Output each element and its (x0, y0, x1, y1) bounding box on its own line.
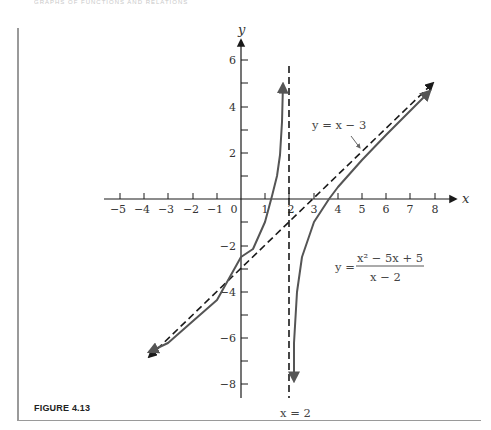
y-axis-tick-labels: 6 4 2 −2 −4 −6 −8 (220, 54, 236, 391)
svg-text:4: 4 (335, 203, 342, 216)
curve-right-branch (294, 91, 430, 381)
svg-text:−2: −2 (183, 203, 199, 216)
svg-text:−6: −6 (220, 332, 236, 345)
svg-text:5: 5 (359, 203, 366, 216)
svg-text:6: 6 (229, 54, 236, 67)
svg-text:−1: −1 (207, 203, 223, 216)
y-axis-ticks (241, 60, 248, 384)
svg-text:−4: −4 (134, 203, 150, 216)
y-axis-label: y (237, 22, 246, 37)
svg-text:4: 4 (229, 101, 236, 114)
function-graph: −5 −4 −3 −2 −1 0 1 2 3 4 5 6 7 8 x (0, 0, 491, 430)
svg-text:0: 0 (231, 203, 238, 216)
svg-text:−3: −3 (158, 203, 174, 216)
x-axis: −5 −4 −3 −2 −1 0 1 2 3 4 5 6 7 8 x (104, 191, 470, 216)
oblique-asymptote-line (149, 83, 433, 357)
svg-text:8: 8 (432, 203, 439, 216)
svg-text:y =: y = (334, 260, 355, 274)
vertical-asymptote-label: x = 2 (280, 406, 311, 420)
x-axis-label: x (462, 191, 470, 206)
svg-text:−2: −2 (220, 240, 236, 253)
svg-text:−8: −8 (220, 378, 236, 391)
svg-text:x² − 5x + 5: x² − 5x + 5 (357, 251, 423, 265)
oblique-asymptote-pointer-arrow (351, 136, 360, 148)
svg-text:2: 2 (229, 147, 236, 160)
svg-text:7: 7 (407, 203, 414, 216)
svg-text:x − 2: x − 2 (370, 270, 401, 284)
svg-text:6: 6 (383, 203, 390, 216)
curve-left-branch (149, 84, 283, 352)
svg-text:3: 3 (311, 203, 318, 216)
function-equation-label: y = x² − 5x + 5 x − 2 (334, 251, 424, 284)
svg-text:−5: −5 (110, 203, 126, 216)
x-axis-ticks (120, 193, 435, 199)
oblique-asymptote-label: y = x − 3 (311, 118, 366, 132)
figure-caption: FIGURE 4.13 (34, 403, 90, 413)
x-axis-tick-labels: −5 −4 −3 −2 −1 0 1 2 3 4 5 6 7 8 (110, 203, 439, 216)
